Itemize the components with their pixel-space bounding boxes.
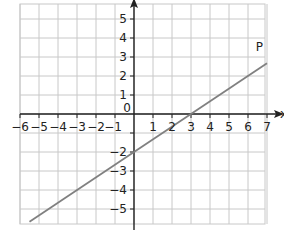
axes (20, 0, 284, 230)
y-tick-label: 4 (119, 31, 127, 45)
y-tick-label: −4 (109, 183, 127, 197)
y-tick-label: 2 (119, 69, 127, 83)
x-tick-label: −1 (104, 120, 122, 134)
y-tick-label: 5 (119, 12, 127, 26)
y-tick-label: 1 (119, 88, 127, 102)
y-tick-label: −5 (109, 202, 127, 216)
coordinate-graph: P −6−5−4−3−2−112345670−5−4−3−212345x (0, 0, 284, 231)
x-tick-label: 6 (244, 120, 252, 134)
y-tick-label: 3 (119, 50, 127, 64)
x-tick-label: −2 (87, 120, 105, 134)
x-tick-label: 1 (149, 120, 157, 134)
line-label: P (256, 40, 263, 54)
x-tick-label: −6 (11, 120, 29, 134)
y-tick-label: −2 (109, 145, 127, 159)
x-tick-label: 4 (206, 120, 214, 134)
x-tick-label: 7 (263, 120, 271, 134)
x-tick-label: 5 (225, 120, 233, 134)
line-p (30, 63, 268, 221)
x-tick-label: −3 (68, 120, 86, 134)
origin-label: 0 (123, 101, 131, 115)
y-tick-label: −3 (109, 164, 127, 178)
x-tick-label: −5 (30, 120, 48, 134)
x-axis-label: x (280, 107, 284, 121)
x-tick-label: 3 (187, 120, 195, 134)
x-tick-label: −4 (49, 120, 67, 134)
x-tick-label: 2 (168, 120, 176, 134)
